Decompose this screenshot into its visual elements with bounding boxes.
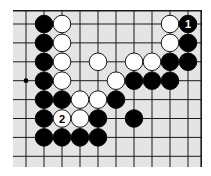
black-stone[interactable] (71, 129, 89, 147)
white-stone[interactable] (53, 34, 71, 52)
white-stone[interactable] (71, 91, 89, 109)
black-stone[interactable] (35, 129, 53, 147)
black-stone[interactable] (179, 53, 197, 71)
black-stone[interactable] (161, 72, 179, 90)
black-stone[interactable] (35, 72, 53, 90)
white-stone[interactable] (107, 72, 125, 90)
black-stone[interactable] (35, 15, 53, 33)
black-stone[interactable] (89, 110, 107, 128)
white-stone[interactable] (89, 53, 107, 71)
move-number-label: 2 (59, 113, 65, 125)
black-stone[interactable] (125, 110, 143, 128)
black-stone[interactable] (89, 129, 107, 147)
black-stone[interactable] (107, 91, 125, 109)
white-stone[interactable] (71, 110, 89, 128)
go-board-grid: 12 (13, 10, 202, 167)
black-stone[interactable] (53, 91, 71, 109)
white-stone[interactable] (53, 53, 71, 71)
white-stone[interactable] (53, 15, 71, 33)
move-number-label: 1 (185, 18, 191, 30)
black-stone[interactable] (53, 129, 71, 147)
white-stone[interactable] (89, 91, 107, 109)
star-point (24, 78, 29, 83)
black-stone[interactable] (35, 110, 53, 128)
black-stone[interactable] (35, 34, 53, 52)
go-board[interactable]: 12 (13, 10, 202, 167)
black-stone[interactable] (35, 53, 53, 71)
white-stone[interactable] (125, 53, 143, 71)
black-stone[interactable] (143, 72, 161, 90)
white-stone[interactable] (53, 72, 71, 90)
white-stone[interactable] (161, 15, 179, 33)
black-stone[interactable] (35, 91, 53, 109)
white-stone[interactable] (143, 53, 161, 71)
black-stone[interactable] (179, 34, 197, 52)
white-stone[interactable] (161, 34, 179, 52)
black-stone[interactable] (161, 53, 179, 71)
black-stone[interactable] (125, 72, 143, 90)
